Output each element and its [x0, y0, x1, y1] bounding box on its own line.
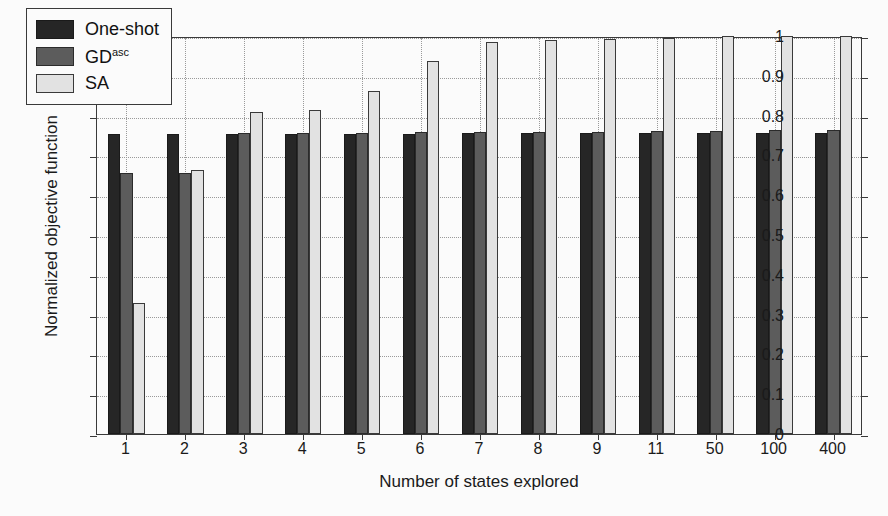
y-tick-mark: [861, 277, 868, 278]
y-tick-label: 0.9: [724, 68, 784, 86]
legend-label-superscript: asc: [112, 46, 129, 58]
y-tick-mark: [861, 38, 868, 39]
bar-chart-figure: Normalized objective function 00.10.20.3…: [0, 0, 888, 516]
bar: [226, 134, 238, 434]
bar: [191, 170, 203, 434]
bar: [592, 132, 604, 434]
y-tick-label: 0.3: [724, 307, 784, 325]
bar: [344, 134, 356, 434]
y-tick-label: 0.7: [724, 147, 784, 165]
y-tick-mark: [861, 197, 868, 198]
y-tick-mark: [90, 356, 97, 357]
x-tick-label: 400: [798, 440, 868, 458]
y-tick-mark: [861, 317, 868, 318]
y-tick-label: 0.6: [724, 187, 784, 205]
legend-item: GDasc: [36, 43, 159, 70]
y-tick-label: 0.1: [724, 386, 784, 404]
legend-item: SA: [36, 70, 159, 97]
bar: [167, 134, 179, 434]
bar: [604, 39, 616, 434]
bar: [285, 134, 297, 434]
bar: [639, 133, 651, 434]
bar: [297, 133, 309, 434]
x-axis-title: Number of states explored: [96, 472, 862, 492]
y-tick-mark: [90, 237, 97, 238]
y-tick-mark: [861, 396, 868, 397]
legend-label: SA: [85, 73, 109, 94]
bar: [580, 133, 592, 434]
bar: [663, 38, 675, 434]
bar: [309, 110, 321, 434]
y-tick-mark: [861, 157, 868, 158]
y-tick-mark: [861, 237, 868, 238]
bar: [368, 91, 380, 434]
y-tick-mark: [90, 317, 97, 318]
bar: [697, 133, 709, 434]
bar: [356, 133, 368, 434]
legend-label: One-shot: [85, 19, 159, 40]
bar: [462, 133, 474, 434]
legend-label: GDasc: [85, 46, 129, 68]
legend-swatch: [36, 20, 74, 39]
bar: [120, 173, 132, 434]
bar: [710, 131, 722, 434]
y-tick-label: 1: [724, 28, 784, 46]
y-tick-label: 0.4: [724, 267, 784, 285]
y-tick-mark: [861, 78, 868, 79]
bar: [545, 40, 557, 434]
y-tick-label: 0.2: [724, 346, 784, 364]
bar: [133, 303, 145, 434]
bar: [486, 42, 498, 434]
bar: [415, 132, 427, 434]
y-tick-mark: [861, 118, 868, 119]
y-tick-mark: [90, 277, 97, 278]
bar: [179, 173, 191, 434]
bar: [651, 131, 663, 434]
y-tick-mark: [90, 396, 97, 397]
chart-legend: One-shotGDascSA: [26, 8, 172, 105]
legend-swatch: [36, 74, 74, 93]
y-tick-mark: [861, 356, 868, 357]
bar: [250, 112, 262, 434]
y-tick-mark: [90, 436, 97, 437]
y-tick-label: 0.5: [724, 227, 784, 245]
legend-item: One-shot: [36, 16, 159, 43]
bar: [827, 130, 839, 434]
bar: [403, 134, 415, 434]
bar: [427, 61, 439, 434]
y-tick-mark: [90, 157, 97, 158]
bar: [238, 133, 250, 434]
bar: [815, 133, 827, 434]
legend-swatch: [36, 47, 74, 66]
bar: [840, 36, 852, 434]
y-tick-label: 0.8: [724, 108, 784, 126]
y-tick-mark: [861, 436, 868, 437]
bar: [521, 133, 533, 434]
bar: [533, 132, 545, 434]
y-tick-mark: [90, 197, 97, 198]
y-tick-mark: [90, 118, 97, 119]
bar: [474, 132, 486, 434]
bar: [108, 134, 120, 434]
